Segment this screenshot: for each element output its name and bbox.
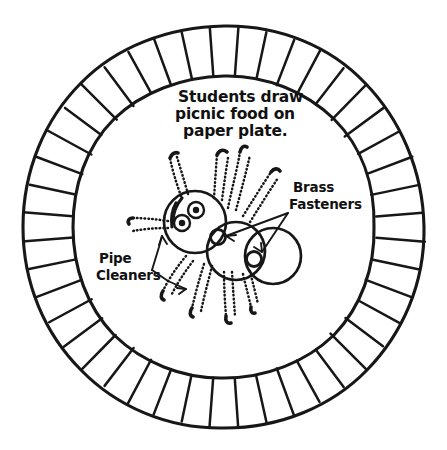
leg-tip-upper-right xyxy=(271,169,280,172)
plate-flute-tick xyxy=(256,376,266,422)
plate-flute-tick xyxy=(105,348,134,386)
plate-flute-tick xyxy=(30,185,74,194)
plate-flute-tick xyxy=(23,212,73,216)
spider-legs xyxy=(128,146,280,323)
plate-flute-tick xyxy=(25,237,73,241)
paper-plate-rim xyxy=(23,26,425,428)
plate-flute-ticks xyxy=(23,26,425,427)
brass-fasteners-label-line-2: Fasteners xyxy=(289,196,362,212)
eye-lower-pupil xyxy=(179,220,185,226)
leg-lower-left-a xyxy=(163,256,186,291)
plate-flute-tick xyxy=(235,26,239,75)
plate-flute-tick xyxy=(366,280,412,297)
plate-flute-tick xyxy=(316,68,344,104)
instruction-caption: Students draw picnic food on paper plate… xyxy=(175,88,303,140)
plate-flute-tick xyxy=(345,318,383,346)
plate-flute-tick xyxy=(332,85,366,120)
leg-tip-upper-center xyxy=(240,146,247,152)
leg-tip-lower-left xyxy=(161,291,164,300)
pipe-cleaners-label-line-1: Pipe xyxy=(99,250,132,266)
plate-flute-tick xyxy=(257,32,267,77)
leg-upper-mid-b xyxy=(222,158,228,200)
plate-flute-tick xyxy=(331,334,367,370)
leg-tip-lower-center xyxy=(226,316,231,323)
caption-line-1: Students draw xyxy=(178,88,303,106)
plate-flute-tick xyxy=(235,380,238,426)
pipe-cleaners-leader-arrow-1 xyxy=(159,236,167,245)
plate-flute-tick xyxy=(128,360,151,404)
pipe-cleaners-leader-arrow-2 xyxy=(177,288,186,294)
brass-fastener-abdomen-joint xyxy=(247,252,262,267)
plate-flute-tick xyxy=(29,260,75,269)
plate-flute-tick xyxy=(128,52,151,93)
plate-flute-tick xyxy=(154,371,171,415)
plate-flute-tick xyxy=(105,67,134,106)
illustration-root: Students draw picnic food on paper plate… xyxy=(0,0,447,450)
plate-flute-tick xyxy=(376,238,424,242)
plate-flute-tick xyxy=(154,39,171,84)
paper-plate-spider-illustration: Students draw picnic food on paper plate… xyxy=(0,0,447,450)
plate-flute-tick xyxy=(358,301,400,324)
leg-upper-mid-a xyxy=(214,155,217,198)
plate-flute-tick xyxy=(210,28,213,76)
plate-flute-tick xyxy=(36,280,81,297)
brass-fasteners-leader-2 xyxy=(262,213,288,252)
brass-fasteners-label-line-1: Brass xyxy=(293,179,334,195)
plate-flute-tick xyxy=(64,318,102,347)
plate-flute-tick xyxy=(367,157,412,174)
spider-eye-lower xyxy=(174,215,190,231)
plate-flute-tick xyxy=(297,361,320,402)
leg-tip-left-antenna xyxy=(128,218,133,224)
leg-tip-lower-midleft xyxy=(190,308,193,317)
spider-eye-upper xyxy=(188,202,204,218)
plate-flute-tick xyxy=(277,369,294,416)
plate-flute-tick xyxy=(316,350,344,387)
pipe-cleaners-label-line-2: Cleaners xyxy=(96,267,161,283)
plate-flute-tick xyxy=(376,213,423,217)
plate-flute-tick xyxy=(209,378,213,428)
plate-flute-tick xyxy=(65,108,101,135)
caption-line-2: picnic food on xyxy=(175,105,295,123)
plate-flute-tick xyxy=(345,107,385,136)
plate-flute-tick xyxy=(182,32,192,79)
plate-flute-tick xyxy=(372,259,418,269)
plate-flute-tick xyxy=(277,40,294,85)
plate-flute-tick xyxy=(36,157,82,174)
leg-left-antenna-b xyxy=(133,228,168,231)
plate-flute-tick xyxy=(371,185,419,195)
leg-upper-right-a xyxy=(243,172,271,216)
spider-figure xyxy=(128,146,301,323)
plate-flute-tick xyxy=(48,131,91,155)
leg-tip-upper-mid xyxy=(217,150,227,155)
caption-line-3: paper plate. xyxy=(183,122,287,140)
plate-flute-tick xyxy=(82,85,117,120)
leg-lower-midleft-b xyxy=(201,266,212,311)
plate-flute-tick xyxy=(358,132,398,154)
brass-fasteners-callout: Brass Fasteners xyxy=(226,179,362,252)
plate-flute-tick xyxy=(82,335,116,369)
plate-flute-tick xyxy=(182,375,192,422)
leg-tip-lower-right xyxy=(251,307,255,313)
plate-flute-tick xyxy=(49,299,92,322)
leg-lower-midleft-a xyxy=(192,264,204,308)
brass-fasteners-leader-arrow-1 xyxy=(226,235,236,241)
eye-upper-pupil xyxy=(193,207,199,213)
